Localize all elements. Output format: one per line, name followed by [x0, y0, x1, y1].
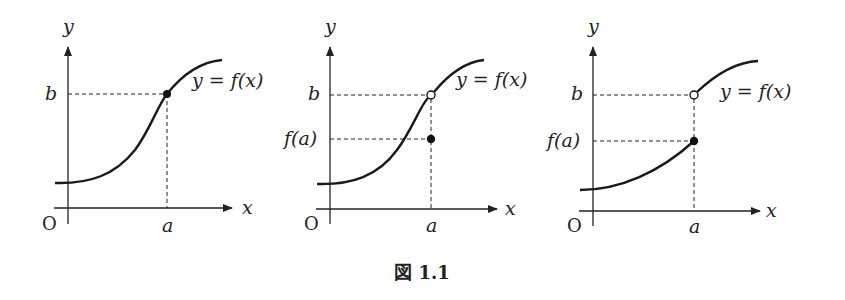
figure-canvas: y x O a b y = f(x) y x O a b f(a) y = f(…: [0, 0, 845, 300]
filled-point: [690, 137, 698, 145]
origin-label: O: [42, 213, 57, 234]
b-label: b: [571, 82, 583, 104]
filled-point: [163, 90, 171, 98]
panel-1: y x O a b y = f(x): [42, 15, 263, 236]
open-point: [690, 91, 698, 99]
curve-label: y = f(x): [191, 69, 263, 91]
x-axis-label: x: [505, 197, 516, 219]
b-label: b: [45, 82, 57, 104]
y-axis-label: y: [62, 15, 74, 37]
curve-label: y = f(x): [719, 80, 791, 102]
fa-label: f(a): [282, 127, 317, 149]
open-point: [427, 91, 435, 99]
fa-label: f(a): [545, 129, 580, 151]
a-label: a: [426, 214, 437, 236]
origin-label: O: [304, 213, 319, 234]
a-label: a: [162, 214, 173, 236]
filled-point: [427, 135, 435, 143]
figure-caption: 図 1.1: [394, 262, 450, 283]
x-axis-label: x: [766, 199, 777, 221]
panel-2: y x O a b f(a) y = f(x): [282, 15, 527, 236]
y-axis-label: y: [587, 15, 599, 37]
function-curve-left: [580, 141, 694, 190]
b-label: b: [308, 82, 320, 104]
y-axis-label: y: [324, 15, 336, 37]
origin-label: O: [567, 215, 582, 236]
panel-3: y x O a b f(a) y = f(x): [545, 15, 791, 237]
curve-label: y = f(x): [455, 68, 527, 90]
a-label: a: [689, 215, 700, 237]
x-axis-label: x: [242, 196, 253, 218]
